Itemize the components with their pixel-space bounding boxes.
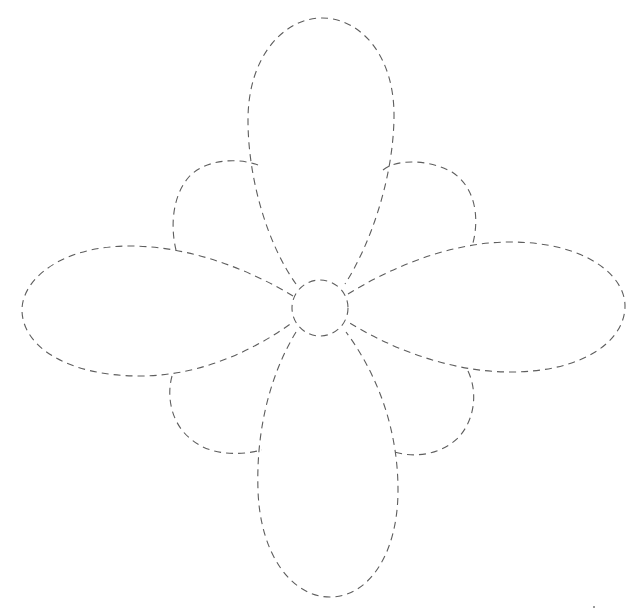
scan-artifact <box>593 606 595 608</box>
lobe-top-left <box>173 161 258 250</box>
petal-right <box>348 242 625 372</box>
lobe-top-right <box>383 162 476 243</box>
petal-left <box>22 246 293 376</box>
petal-bottom <box>258 332 398 597</box>
lobe-bottom-right <box>394 371 474 455</box>
petal-top <box>248 18 394 284</box>
center-circle <box>292 280 348 336</box>
flower-outline-diagram <box>0 0 638 612</box>
lobe-bottom-left <box>170 376 262 453</box>
